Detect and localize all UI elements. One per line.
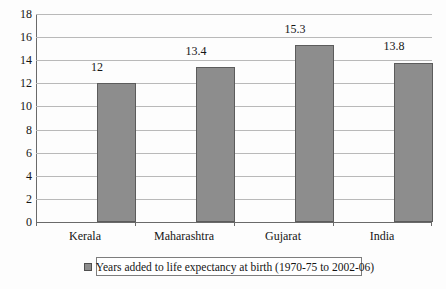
x-tick-mark — [333, 222, 334, 226]
gridline — [36, 37, 432, 38]
x-tick-mark — [135, 222, 136, 226]
bar-india[interactable] — [394, 63, 433, 223]
y-tick-label: 18 — [2, 8, 32, 20]
y-tick-label: 10 — [2, 100, 32, 112]
x-category-label-gujarat: Gujarat — [228, 230, 338, 243]
x-tick-mark — [234, 222, 235, 226]
bar-value-maharashtra: 13.4 — [166, 45, 226, 57]
y-tick-label: 8 — [2, 124, 32, 136]
x-category-label-maharashtra: Maharashtra — [129, 230, 239, 243]
legend: Years added to life expectancy at birth … — [96, 257, 362, 276]
y-tick-label: 0 — [2, 216, 32, 228]
legend-label: Years added to life expectancy at birth … — [96, 261, 374, 273]
y-tick-label: 14 — [2, 54, 32, 66]
x-category-label-kerala: Kerala — [30, 230, 140, 243]
bar-maharashtra[interactable] — [196, 67, 235, 222]
y-tick-label: 16 — [2, 31, 32, 43]
y-tick-label: 2 — [2, 193, 32, 205]
gridline — [36, 14, 432, 15]
y-axis-tick-labels: 18 16 14 12 10 8 6 4 2 0 — [0, 14, 32, 222]
x-tick-mark — [431, 222, 432, 226]
bar-value-india: 13.8 — [364, 40, 424, 52]
x-tick-mark — [36, 222, 37, 226]
y-tick-label: 12 — [2, 77, 32, 89]
bar-value-gujarat: 15.3 — [265, 23, 325, 35]
bar-kerala[interactable] — [97, 83, 136, 222]
legend-swatch-icon — [84, 263, 92, 271]
bar-gujarat[interactable] — [295, 45, 334, 222]
y-tick-label: 6 — [2, 147, 32, 159]
y-tick-label: 4 — [2, 170, 32, 182]
x-category-label-india: India — [327, 230, 437, 243]
bar-value-kerala: 12 — [67, 61, 127, 73]
bar-chart: 18 16 14 12 10 8 6 4 2 0 12 13. — [0, 0, 446, 289]
